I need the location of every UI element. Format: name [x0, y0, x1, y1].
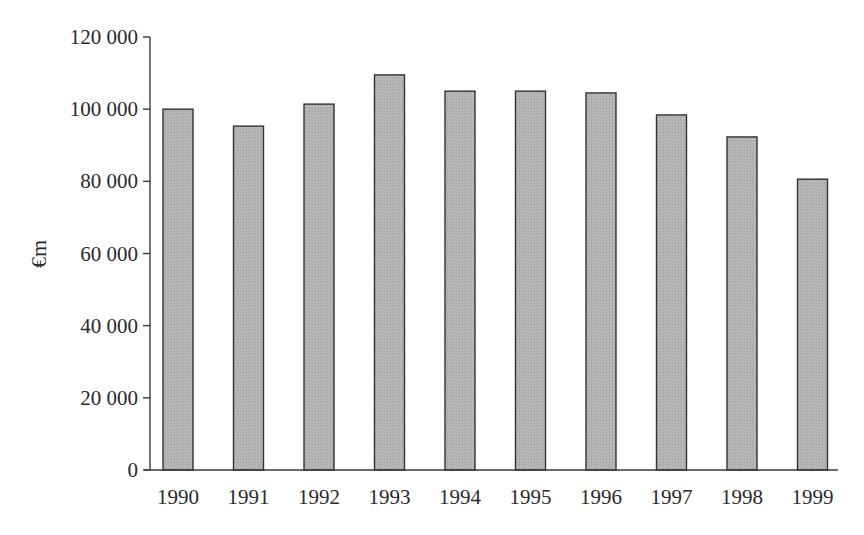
- bar-1998: [727, 137, 757, 470]
- bar-1995: [516, 91, 546, 470]
- bars: [163, 75, 828, 470]
- bar-1993: [375, 75, 405, 470]
- x-tick-label: 1991: [228, 485, 270, 509]
- x-tick-label: 1993: [369, 485, 411, 509]
- x-tick-label: 1998: [721, 485, 763, 509]
- x-tick-label: 1994: [439, 485, 482, 509]
- bar-1997: [657, 115, 687, 470]
- x-tick-label: 1999: [792, 485, 834, 509]
- bar-1999: [798, 179, 828, 470]
- y-tick-label: 80 000: [80, 169, 138, 193]
- y-tick-label: 120 000: [70, 25, 138, 49]
- y-axis-ticks: 020 00040 00060 00080 000100 000120 000: [70, 25, 150, 482]
- bar-1994: [445, 91, 475, 470]
- bar-1990: [163, 109, 193, 470]
- y-tick-label: 40 000: [80, 314, 138, 338]
- y-tick-label: 100 000: [70, 97, 138, 121]
- x-tick-label: 1992: [298, 485, 340, 509]
- x-tick-label: 1995: [510, 485, 552, 509]
- bar-1992: [304, 104, 334, 470]
- bar-1991: [234, 126, 264, 470]
- y-tick-label: 0: [128, 458, 139, 482]
- y-axis-title: €m: [26, 240, 51, 268]
- y-tick-label: 60 000: [80, 242, 138, 266]
- x-tick-label: 1990: [157, 485, 199, 509]
- y-tick-label: 20 000: [80, 386, 138, 410]
- x-tick-label: 1997: [651, 485, 693, 509]
- bar-1996: [586, 93, 616, 470]
- x-tick-label: 1996: [580, 485, 622, 509]
- x-axis-labels: 1990199119921993199419951996199719981999: [157, 485, 834, 509]
- bar-chart: 020 00040 00060 00080 000100 000120 000 …: [0, 0, 864, 535]
